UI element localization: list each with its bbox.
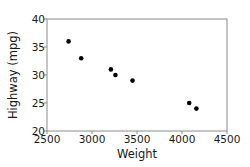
x-axis: 25003000350040004500: [34, 131, 241, 145]
scatter-chart: 2025303540 25003000350040004500 Weight H…: [0, 0, 250, 167]
x-tick-label: 4500: [214, 133, 241, 145]
data-point: [194, 106, 199, 111]
data-point: [66, 39, 71, 44]
x-axis-label: Weight: [117, 147, 158, 161]
data-point: [130, 78, 135, 83]
y-tick-label: 30: [32, 69, 45, 81]
data-point: [187, 101, 192, 106]
x-tick-label: 2500: [34, 133, 61, 145]
data-point: [113, 73, 118, 78]
data-points: [66, 39, 198, 111]
plot-area: [47, 19, 227, 131]
y-axis: 2025303540: [32, 13, 47, 137]
y-tick-label: 35: [32, 41, 45, 53]
x-tick-label: 4000: [169, 133, 196, 145]
y-tick-label: 40: [32, 13, 45, 25]
y-axis-label: Highway (mpg): [6, 31, 20, 119]
x-tick-label: 3000: [79, 133, 106, 145]
x-tick-label: 3500: [124, 133, 151, 145]
data-point: [79, 56, 84, 61]
y-tick-label: 25: [32, 97, 45, 109]
data-point: [109, 67, 114, 72]
